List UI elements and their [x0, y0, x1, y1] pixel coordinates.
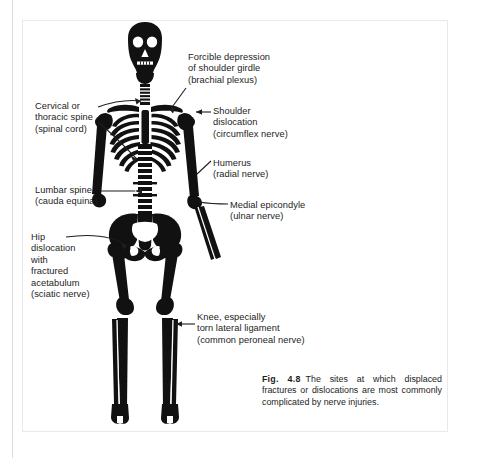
figure-number: Fig. 4.8	[262, 374, 301, 384]
label-humerus: Humerus (radial nerve)	[213, 158, 268, 181]
label-cervical-or-thoracic-spine: Cervical or thoracic spine (spinal cord)	[35, 101, 93, 135]
label-knee-torn-lateral-ligament: Knee, especially torn lateral ligament (…	[197, 312, 305, 346]
page-gutter-rule	[12, 0, 13, 458]
label-shoulder-dislocation: Shoulder dislocation (circumflex nerve)	[213, 106, 288, 140]
label-medial-epicondyle: Medial epicondyle (ulnar nerve)	[230, 200, 305, 223]
figure-caption: Fig. 4.8The sites at which displaced fra…	[262, 374, 442, 408]
label-lumbar-spine: Lumbar spine (cauda equina)	[35, 185, 98, 208]
label-hip-dislocation: Hip dislocation with fractured acetabulu…	[31, 232, 90, 300]
figure-container: Forcible depression of shoulder girdle (…	[0, 0, 481, 458]
label-forcible-depression-of-shoulder-girdle: Forcible depression of shoulder girdle (…	[188, 52, 270, 86]
